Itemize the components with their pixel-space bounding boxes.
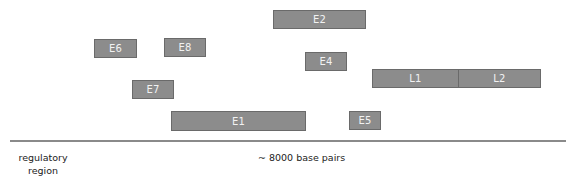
regulatory-label-line-2: region — [14, 164, 72, 177]
segment-e2: E2 — [273, 10, 366, 29]
segment-e1: E1 — [171, 111, 306, 131]
regulatory-region-label: regulatory region — [14, 151, 72, 177]
segment-e5: E5 — [349, 111, 381, 130]
segment-e7: E7 — [132, 80, 174, 99]
segment-e8: E8 — [164, 38, 206, 57]
segment-e4: E4 — [305, 52, 347, 71]
regulatory-label-line-1: regulatory — [14, 151, 72, 164]
genome-axis-line — [10, 140, 566, 142]
segment-l1: L1 — [372, 69, 459, 88]
segment-e6: E6 — [94, 39, 137, 58]
scale-label: ~ 8000 base pairs — [258, 151, 345, 164]
segment-l2: L2 — [458, 69, 541, 88]
